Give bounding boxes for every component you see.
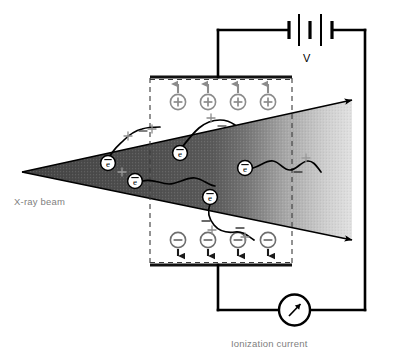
negative-ion-row (170, 232, 275, 256)
voltage-label: V (303, 52, 310, 64)
negative-ion (260, 232, 275, 256)
positive-ion (230, 84, 245, 110)
ionization-chamber-diagram: e e e e e (0, 0, 393, 359)
negative-ion (170, 232, 185, 256)
electron: e (203, 190, 218, 205)
beam-texture (22, 100, 352, 240)
negative-ion (200, 232, 215, 256)
ammeter-symbol (279, 295, 310, 326)
electron: e (173, 146, 188, 161)
electron-glyph: e (208, 193, 212, 203)
figure-canvas: e e e e e (0, 0, 393, 359)
electron-glyph: e (133, 177, 137, 187)
positive-ion-row (170, 84, 275, 110)
ion-pair-plus-mark (148, 125, 156, 133)
positive-ion (200, 84, 215, 110)
negative-ion (230, 232, 245, 256)
ionization-current-label: Ionization current (231, 338, 307, 349)
battery-symbol (289, 14, 332, 46)
positive-ion (170, 84, 185, 110)
electron-glyph: e (243, 164, 247, 174)
electron: e (101, 156, 116, 171)
xray-beam-label: X-ray beam (14, 196, 65, 207)
xray-beam-wedge (22, 100, 352, 240)
electron: e (128, 174, 143, 189)
electron: e (238, 161, 253, 176)
electron-glyph: e (106, 159, 110, 169)
positive-ion (260, 84, 275, 110)
electron-glyph: e (178, 149, 182, 159)
